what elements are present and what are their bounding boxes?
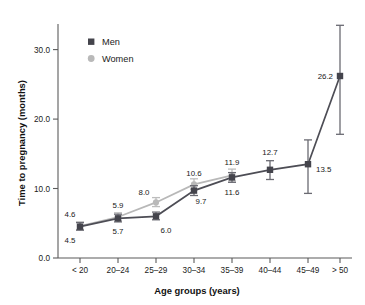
- x-tick-label-2: 25–29: [145, 266, 168, 275]
- y-tick-label-0: 0.0: [39, 254, 51, 263]
- point-label-men-6: 13.5: [316, 165, 332, 174]
- point-label-women-1: 5.9: [113, 201, 125, 210]
- legend-label-women: Women: [102, 54, 134, 64]
- point-label-men-1: 5.7: [113, 227, 124, 236]
- chart-background: [0, 0, 365, 305]
- point-label-women-4: 11.9: [225, 158, 240, 167]
- y-tick-label-20: 20.0: [34, 115, 50, 124]
- x-tick-label-5: 40–44: [259, 266, 282, 275]
- point-label-women-0: 4.6: [65, 210, 77, 219]
- x-tick-label-7: > 50: [332, 266, 349, 275]
- time-to-pregnancy-line-chart: 30.0 20.0 10.0 0.0 < 20 20–24 25–29 30–3…: [0, 0, 365, 305]
- point-label-men-7: 26.2: [318, 72, 333, 81]
- x-tick-label-3: 30–34: [183, 266, 206, 275]
- y-tick-label-30: 30.0: [34, 46, 50, 55]
- x-tick-label-0: < 20: [72, 266, 89, 275]
- point-label-men-4: 11.6: [225, 188, 240, 197]
- x-axis-title: Age groups (years): [154, 285, 239, 296]
- y-axis-title: Time to pregnancy (months): [16, 80, 27, 206]
- x-tick-label-4: 35–39: [221, 266, 244, 275]
- point-label-men-2: 6.0: [161, 226, 173, 235]
- point-label-women-3: 10.6: [186, 169, 202, 178]
- chart-figure: 30.0 20.0 10.0 0.0 < 20 20–24 25–29 30–3…: [0, 0, 365, 305]
- legend-marker-men-icon: [88, 39, 94, 45]
- legend-label-men: Men: [102, 37, 120, 47]
- x-tick-label-1: 20–24: [107, 266, 130, 275]
- point-label-men-0: 4.5: [65, 236, 77, 245]
- y-tick-label-10: 10.0: [34, 185, 50, 194]
- point-label-women-2: 8.0: [139, 188, 151, 197]
- point-label-men-5: 12.7: [262, 148, 277, 157]
- legend-marker-women-icon: [88, 55, 95, 62]
- x-tick-label-6: 45–49: [297, 266, 320, 275]
- point-label-men-3: 9.7: [196, 197, 207, 206]
